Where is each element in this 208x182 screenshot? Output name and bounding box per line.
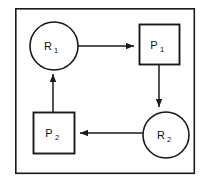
resource-allocation-graph: R 1 P 1 R 2 P 2 [0,0,208,182]
node-r2-subscript: 2 [167,135,171,144]
node-p1-label: P [150,39,157,51]
node-p2[interactable]: P 2 [34,113,75,154]
node-r2-label: R [157,129,165,141]
node-p1-subscript: 1 [160,45,164,54]
node-r1-subscript: 1 [54,46,58,55]
diagram-canvas: R 1 P 1 R 2 P 2 [0,0,208,182]
node-p2-label: P [45,127,52,139]
node-p2-subscript: 2 [55,133,59,142]
node-r1[interactable]: R 1 [30,22,78,70]
node-r1-label: R [44,40,52,52]
node-r2[interactable]: R 2 [143,112,189,158]
node-p1[interactable]: P 1 [140,25,180,65]
